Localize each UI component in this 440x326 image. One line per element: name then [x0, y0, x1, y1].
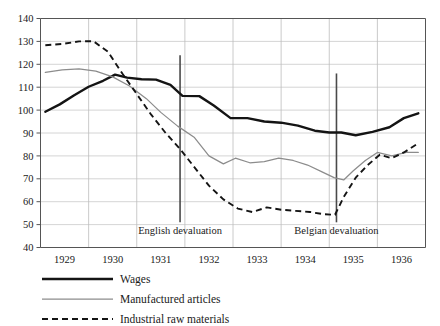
- y-tick-label-60: 60: [23, 196, 34, 207]
- x-tick-label-1931: 1931: [150, 254, 171, 265]
- y-tick-label-130: 130: [18, 36, 34, 47]
- data-series-lines: [45, 41, 418, 215]
- y-tick-label-50: 50: [23, 219, 34, 230]
- event-label-1: Belgian devaluation: [294, 225, 379, 236]
- y-tick-label-80: 80: [23, 151, 34, 162]
- x-tick-label-1930: 1930: [102, 254, 123, 265]
- line-chart-figure: 405060708090100110120130140 192919301931…: [0, 0, 440, 326]
- x-tick-label-1935: 1935: [343, 254, 364, 265]
- y-tick-label-90: 90: [23, 128, 34, 139]
- legend-label-industrial-raw-materials: Industrial raw materials: [120, 313, 230, 325]
- series-line-industrial-raw-materials: [45, 41, 418, 215]
- y-tick-label-100: 100: [18, 105, 34, 116]
- legend-label-manufactured-articles: Manufactured articles: [120, 293, 221, 305]
- x-tick-label-1934: 1934: [295, 254, 317, 265]
- y-tick-label-140: 140: [18, 13, 34, 24]
- y-tick-label-70: 70: [23, 173, 34, 184]
- x-axis-tick-labels: 19291930193119321933193419351936: [54, 254, 412, 265]
- x-tick-label-1936: 1936: [391, 254, 412, 265]
- event-marker-labels: English devaluationBelgian devaluation: [138, 225, 379, 236]
- y-tick-label-40: 40: [23, 242, 34, 253]
- y-axis-tick-labels: 405060708090100110120130140: [18, 13, 34, 253]
- chart-container: 405060708090100110120130140 192919301931…: [0, 0, 440, 326]
- x-tick-label-1933: 1933: [247, 254, 268, 265]
- y-tick-label-110: 110: [18, 82, 33, 93]
- series-line-manufactured-articles: [45, 69, 418, 180]
- chart-legend: WagesManufactured articlesIndustrial raw…: [42, 273, 230, 325]
- y-tick-label-120: 120: [18, 59, 34, 70]
- series-line-wages: [45, 75, 418, 136]
- x-tick-label-1932: 1932: [198, 254, 219, 265]
- y-axis-ticks: [37, 19, 41, 248]
- event-label-0: English devaluation: [138, 225, 222, 236]
- x-tick-label-1929: 1929: [54, 254, 75, 265]
- event-marker-lines: [180, 55, 336, 222]
- legend-label-wages: Wages: [120, 273, 151, 286]
